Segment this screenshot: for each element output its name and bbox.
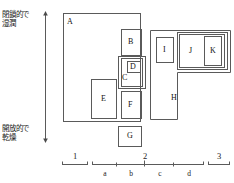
region-K-label: K [210, 47, 216, 55]
region-I-label: I [163, 46, 166, 54]
region-H-label: H [171, 94, 177, 102]
vertical-double-arrow [43, 11, 48, 143]
region-E-label: E [101, 95, 106, 103]
scale-major-2: 2 [140, 152, 150, 161]
region-B-label: B [128, 38, 133, 46]
region-G-label: G [127, 132, 133, 140]
region-C-label: C [122, 74, 127, 82]
scale-minor-a: a [100, 170, 110, 178]
region-D-label: D [130, 63, 136, 71]
region-J-label: J [189, 47, 192, 55]
scale-major-3: 3 [214, 152, 224, 161]
region-A-label: A [67, 18, 73, 26]
scale-major-1: 1 [70, 152, 80, 161]
scale-minor-d: d [184, 170, 194, 178]
scale-minor-b: b [126, 170, 136, 178]
region-F-label: F [128, 101, 132, 109]
figure-canvas: 閉鎖的で 湿潤 開放的で 乾燥 [0, 0, 234, 183]
scale-minor-c: c [155, 170, 165, 178]
horizontal-scale-bars [62, 161, 230, 167]
